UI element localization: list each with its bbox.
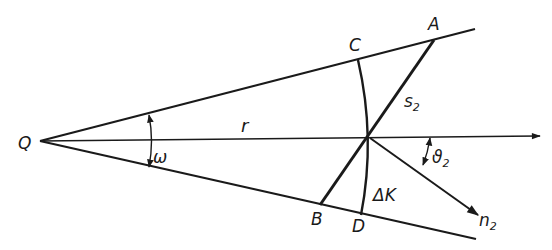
label-q: Q xyxy=(18,133,31,153)
label-n2: n2 xyxy=(479,210,497,233)
label-theta2-main: ϑ xyxy=(432,147,443,167)
label-b: B xyxy=(311,209,323,229)
label-omega: ω xyxy=(153,147,167,167)
label-s2-sub: 2 xyxy=(413,101,420,114)
upper-boundary-line xyxy=(40,29,475,141)
label-n2-sub: 2 xyxy=(490,220,497,233)
label-n2-main: n xyxy=(479,210,490,230)
angle-theta2-arc xyxy=(423,138,430,165)
geometry-diagram: Q A C B D r ω s2 ϑ2 n2 ΔK xyxy=(0,0,552,250)
label-theta2: ϑ2 xyxy=(432,147,450,170)
label-theta2-sub: 2 xyxy=(443,157,450,170)
label-s2: s2 xyxy=(404,91,420,114)
angle-omega-arc xyxy=(149,115,152,167)
label-a: A xyxy=(427,14,440,34)
label-d: D xyxy=(352,216,365,236)
label-s2-main: s xyxy=(404,91,413,111)
label-delta-k: ΔK xyxy=(371,185,398,205)
label-c: C xyxy=(349,35,361,55)
lower-boundary-line xyxy=(40,141,476,239)
label-r: r xyxy=(241,115,250,136)
radius-axis-arrow xyxy=(40,136,540,141)
